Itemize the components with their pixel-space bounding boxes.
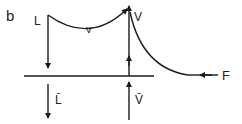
flash-stage-diagram: b L v V F L̄ V̄ — [0, 0, 242, 124]
label-V: V — [134, 10, 142, 24]
label-V-bar: V̄ — [135, 93, 143, 107]
label-F: F — [222, 68, 230, 83]
diagram-svg: b L v V F L̄ V̄ — [0, 0, 242, 124]
label-L-bar: L̄ — [55, 93, 62, 107]
panel-label: b — [6, 7, 14, 24]
label-v: v — [86, 23, 92, 35]
label-L: L — [34, 14, 41, 28]
